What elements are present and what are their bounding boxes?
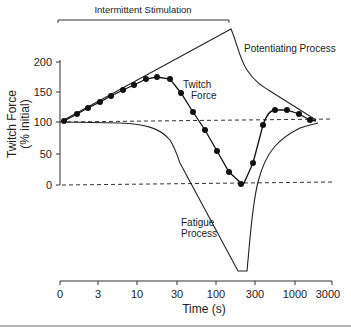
stimulation-bracket <box>58 20 229 23</box>
twitch-label-2: Force <box>191 90 217 101</box>
y-tick: 50 <box>40 148 52 160</box>
y-axis-label: Twitch Force <box>5 90 19 158</box>
x-tick: 3 <box>95 288 101 300</box>
x-tick: 3000 <box>316 288 340 300</box>
y-tick: 0 <box>46 179 52 191</box>
y-axis-label-unit: (% initial) <box>18 99 32 148</box>
fatigue-process-line <box>62 122 318 271</box>
x-tick: 30 <box>171 288 183 300</box>
twitch-label-1: Twitch <box>183 79 211 90</box>
y-tick: 100 <box>34 116 52 128</box>
twitch-force-markers <box>61 74 313 187</box>
y-tick-labels: 200 150 100 50 0 <box>34 56 52 191</box>
fatigue-label-2: Process <box>181 228 217 239</box>
y-tick: 150 <box>34 86 52 98</box>
y-axis <box>56 60 60 185</box>
twitch-force-line <box>64 77 316 183</box>
chart: Intermittent Stimulation 200 150 100 50 … <box>0 0 351 327</box>
baseline-0 <box>62 182 333 185</box>
x-tick: 10 <box>131 288 143 300</box>
y-tick: 200 <box>34 56 52 68</box>
x-tick-labels: 0 3 10 30 100 300 1000 3000 <box>57 288 340 300</box>
x-axis <box>60 281 332 285</box>
x-tick: 0 <box>57 288 63 300</box>
bracket-label: Intermittent Stimulation <box>94 4 191 15</box>
x-axis-label: Time (s) <box>182 302 226 316</box>
x-tick: 300 <box>246 288 264 300</box>
potentiating-label: Potentiating Process <box>244 43 336 54</box>
baseline-100 <box>60 119 333 122</box>
x-tick: 100 <box>207 288 225 300</box>
x-tick: 1000 <box>283 288 307 300</box>
fatigue-label-1: Fatigue <box>181 217 215 228</box>
reference-lines <box>60 119 333 185</box>
